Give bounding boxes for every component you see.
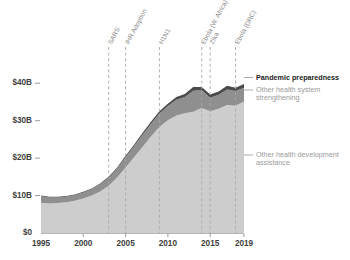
legend: Pandemic preparedness Other health syste… [244,73,339,167]
y-tick-label-$30B: $30B [12,116,32,125]
event-label-h1n1: H1N1 [157,27,171,45]
legend-label-other-health-development-assistance-line2: assistance [256,158,290,167]
x-axis-tick-labels: 199520002005201020152019 [32,239,254,248]
chart-svg: $0$10B$20B$30B$40B 199520002005201020152… [0,0,350,260]
x-tick-label-2019: 2019 [235,239,254,248]
x-tick-label-2010: 2010 [159,239,178,248]
event-label-ebola-drc: Ebola (DRC) [233,9,258,46]
y-tick-label-$20B: $20B [12,153,32,162]
event-label-ihr-adoption: IHR Adoption [123,7,148,45]
plot-bands [41,84,244,233]
area-band-other-health-development-assistance [41,102,244,233]
x-tick-label-2005: 2005 [116,239,135,248]
x-axis-ticks [83,234,244,237]
y-axis-tick-labels: $0$10B$20B$30B$40B [12,78,32,237]
x-tick-label-1995: 1995 [32,239,51,248]
y-tick-label-$10B: $10B [12,191,32,200]
event-label-sars: SARS [106,26,121,46]
legend-label-pandemic-preparedness: Pandemic preparedness [256,73,339,82]
y-tick-label-$40B: $40B [12,78,32,87]
health-funding-area-chart: $0$10B$20B$30B$40B 199520002005201020152… [0,0,350,260]
legend-label-other-health-system-strengthening-line2: strengthening [256,93,300,102]
x-tick-label-2000: 2000 [74,239,93,248]
y-tick-label-$0: $0 [23,228,33,237]
y-axis-ticks [35,83,40,195]
x-tick-label-2015: 2015 [201,239,220,248]
event-annotation-labels: SARSIHR AdoptionH1N1Ebola (W. Africa)Zik… [106,0,257,46]
